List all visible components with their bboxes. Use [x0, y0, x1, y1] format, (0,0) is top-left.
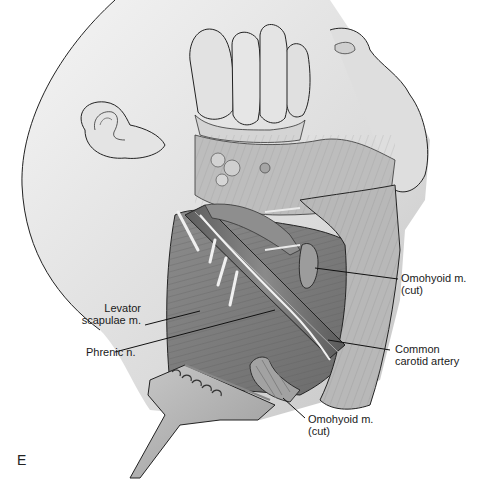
label-levator-line1: Levator [21, 302, 141, 314]
label-carotid-line2: carotid artery [395, 355, 459, 367]
label-levator-line2: scapulae m. [21, 314, 141, 326]
label-levator-scapulae: Levator scapulae m. [21, 302, 141, 326]
label-omohyoid-lower: Omohyoid m. (cut) [308, 413, 373, 437]
anatomical-illustration [0, 0, 480, 479]
label-common-carotid-artery: Common carotid artery [395, 343, 459, 367]
label-omohyoid-upper-line1: Omohyoid m. [401, 272, 466, 284]
label-omohyoid-lower-line2: (cut) [308, 425, 373, 437]
label-omohyoid-upper: Omohyoid m. (cut) [401, 272, 466, 296]
label-omohyoid-lower-line1: Omohyoid m. [308, 413, 373, 425]
label-carotid-line1: Common [395, 343, 459, 355]
label-phrenic-line1: Phrenic n. [86, 346, 136, 358]
label-phrenic-nerve: Phrenic n. [86, 346, 136, 358]
panel-letter: E [17, 452, 26, 468]
label-omohyoid-upper-line2: (cut) [401, 284, 466, 296]
